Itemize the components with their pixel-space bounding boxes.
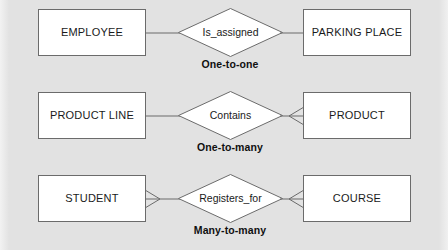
relationship-diamond: Contains: [178, 91, 283, 140]
er-diagram-canvas: EMPLOYEE Is_assigned PARKING PLACE One-t…: [0, 0, 448, 250]
er-relationship-row: PRODUCT LINE Contains: [0, 83, 448, 166]
connector-right: [280, 32, 304, 34]
entity-box-right: PRODUCT: [303, 92, 411, 139]
cardinality-text: One-to-many: [197, 141, 263, 154]
crows-foot-icon: [280, 107, 304, 125]
entity-label: STUDENT: [65, 193, 118, 204]
entity-label: PRODUCT LINE: [50, 110, 134, 121]
entity-box-right: COURSE: [303, 175, 411, 222]
entity-box-left: EMPLOYEE: [38, 9, 146, 56]
entity-box-left: PRODUCT LINE: [38, 92, 146, 139]
crows-foot-icon: [145, 190, 180, 208]
relationship-diamond: Registers_for: [178, 174, 283, 223]
entity-box-right: PARKING PLACE: [303, 9, 411, 56]
connector-left: [145, 115, 180, 117]
er-relationship-row: STUDENT Registers_for: [0, 166, 448, 249]
cardinality-caption: Many-to-many: [0, 224, 448, 237]
connector-left-crows-foot: [145, 198, 180, 200]
cardinality-text: One-to-one: [202, 58, 259, 71]
cardinality-caption: One-to-one: [0, 58, 448, 71]
entity-label: COURSE: [333, 193, 381, 204]
er-relationship-row: EMPLOYEE Is_assigned PARKING PLACE One-t…: [0, 0, 448, 83]
connector-right-crows-foot: [280, 198, 304, 200]
entity-label: PRODUCT: [329, 110, 385, 121]
relationship-diamond: Is_assigned: [178, 8, 283, 57]
cardinality-caption: One-to-many: [0, 141, 448, 154]
entity-label: PARKING PLACE: [312, 27, 402, 38]
entity-label: EMPLOYEE: [61, 27, 123, 38]
crows-foot-icon: [280, 190, 304, 208]
cardinality-text: Many-to-many: [194, 224, 266, 237]
connector-right-crows-foot: [280, 115, 304, 117]
entity-box-left: STUDENT: [38, 175, 146, 222]
connector-left: [145, 32, 180, 34]
